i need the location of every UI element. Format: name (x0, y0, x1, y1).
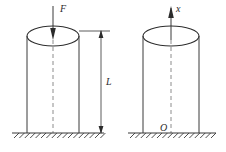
axis-arrowhead-icon (168, 6, 174, 18)
engineering-figure: F L (0, 0, 226, 152)
ground-hatching (14, 133, 105, 138)
axis-label: x (175, 3, 181, 14)
left-column-group: F L (12, 3, 112, 138)
origin-label: O (160, 122, 167, 133)
figure-canvas: F L (0, 0, 226, 152)
force-label: F (59, 3, 67, 14)
ground-hatching-right (130, 133, 216, 138)
length-label: L (105, 76, 112, 87)
right-column-group: x O (128, 3, 216, 138)
force-arrowhead-icon (50, 28, 56, 40)
